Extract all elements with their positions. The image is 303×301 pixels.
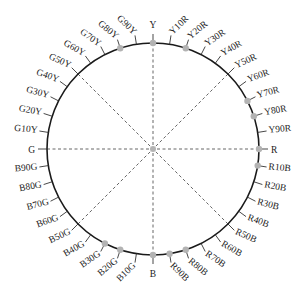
tick-g10y	[39, 131, 48, 132]
hue-label-b70g: B70G	[25, 196, 50, 212]
marker-y70r	[244, 98, 250, 104]
hue-label-b: B	[150, 269, 156, 279]
hue-label-y60r: Y60R	[246, 67, 271, 84]
tick-r40b	[239, 211, 246, 216]
tick-g30y	[51, 97, 59, 101]
marker-g80y	[117, 45, 123, 51]
tick-b70g	[51, 197, 59, 201]
tick-g60y	[85, 56, 90, 63]
hue-label-g70y: G70Y	[78, 27, 103, 49]
hue-circle-diagram: YY10RY20RY30RY40RY50RY60RY70RY80RY90RRR1…	[0, 0, 303, 301]
hue-label-g60y: G60Y	[62, 38, 87, 58]
hue-label-b90g: B90G	[14, 161, 38, 173]
marker-y20r	[183, 45, 189, 51]
tick-g20y	[44, 113, 53, 116]
hue-label-r10b: R10B	[268, 162, 291, 174]
tick-r20b	[254, 182, 263, 185]
tick-b40g	[85, 235, 90, 242]
tick-y60r	[239, 81, 246, 86]
tick-r70b	[201, 243, 205, 251]
hue-label-r30b: R30B	[256, 197, 280, 212]
hue-label-g: G	[28, 145, 35, 155]
hue-label-y80r: Y80R	[263, 103, 288, 117]
marker-b	[150, 252, 156, 258]
marker-r	[256, 146, 262, 152]
marker-b30g	[102, 240, 108, 246]
tick-y40r	[215, 56, 220, 63]
hue-label-g50y: G50Y	[47, 51, 72, 70]
hue-label-y30r: Y30R	[203, 27, 228, 49]
tick-b90g	[39, 166, 48, 167]
hue-label-y: Y	[150, 20, 157, 30]
hue-label-g40y: G40Y	[35, 67, 60, 84]
hue-label-y90r: Y90R	[268, 123, 292, 135]
tick-g70y	[101, 47, 105, 55]
tick-y10r	[170, 35, 171, 44]
hue-label-r70b: R70B	[204, 248, 228, 269]
hue-label-r: R	[271, 145, 278, 155]
tick-g40y	[60, 81, 67, 86]
hue-label-g10y: G10Y	[14, 123, 38, 135]
hue-label-g20y: G20Y	[18, 103, 43, 117]
hue-label-b40g: B40G	[62, 239, 87, 259]
tick-g90y	[135, 35, 136, 44]
hue-label-y40r: Y40R	[219, 38, 244, 58]
hue-label-b60g: B60G	[35, 212, 60, 229]
hue-label-r40b: R40B	[246, 212, 270, 229]
marker-b20g	[117, 247, 123, 253]
tick-r50b	[228, 224, 234, 230]
tick-b50g	[72, 224, 78, 230]
marker-r80b	[183, 247, 189, 253]
marker-y	[150, 40, 156, 46]
tick-r30b	[247, 197, 255, 201]
tick-b80g	[44, 182, 53, 185]
marker-r90b	[166, 250, 172, 256]
marker-r10b	[254, 162, 260, 168]
hue-label-r60b: R60B	[220, 239, 244, 259]
hue-label-r20b: R20B	[264, 179, 288, 193]
hue-label-g30y: G30Y	[25, 84, 50, 100]
tick-y50r	[228, 68, 234, 74]
tick-y90r	[258, 131, 267, 132]
marker-y80r	[251, 113, 257, 119]
hue-label-r50b: R50B	[234, 226, 258, 244]
tick-y30r	[201, 47, 205, 55]
tick-b10g	[135, 254, 136, 263]
hue-label-y50r: Y50R	[233, 51, 258, 70]
tick-r60b	[215, 235, 220, 242]
tick-g50y	[72, 68, 78, 74]
tick-b60g	[60, 211, 67, 216]
center-point	[150, 146, 156, 152]
hue-label-b50g: B50G	[47, 226, 72, 245]
hue-label-b80g: B80G	[18, 179, 42, 193]
hue-label-y70r: Y70R	[256, 84, 281, 100]
